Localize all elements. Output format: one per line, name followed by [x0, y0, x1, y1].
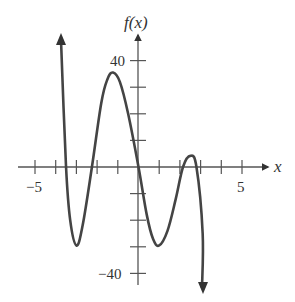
y-axis-label: f(x): [124, 13, 148, 32]
x-axis-label: x: [273, 157, 282, 176]
curve-down-arrow-icon: [198, 282, 208, 294]
y-tick-label-40: 40: [110, 53, 125, 69]
function-curve: [61, 40, 203, 288]
curve-up-arrow-icon: [56, 33, 66, 45]
function-graph: x f(x) −5 5 40 −40: [0, 0, 295, 302]
x-tick-label-5: 5: [237, 179, 245, 195]
x-tick-label-neg5: −5: [26, 179, 42, 195]
plot-canvas: x f(x) −5 5 40 −40: [0, 0, 295, 302]
y-tick-label-neg40: −40: [98, 266, 121, 282]
